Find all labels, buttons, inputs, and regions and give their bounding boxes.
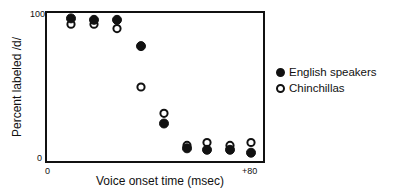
english-speakers-point <box>160 119 169 128</box>
chinchillas-point <box>137 83 144 90</box>
legend-label: Chinchillas <box>289 82 345 94</box>
y-axis-label: Percent labeled /d/ <box>10 32 24 142</box>
legend-label: English speakers <box>289 66 377 78</box>
english-speakers-point <box>183 144 192 153</box>
open-circle-icon <box>276 84 285 93</box>
chinchillas-point <box>113 25 120 32</box>
x-axis-label: Voice onset time (msec) <box>60 174 260 188</box>
english-speakers-point <box>137 42 146 51</box>
x-tick-0: 0 <box>45 166 50 176</box>
scatter-plot <box>0 0 398 195</box>
english-speakers-point <box>226 145 235 154</box>
english-speakers-point <box>113 15 122 24</box>
legend: English speakers Chinchillas <box>276 64 377 96</box>
chinchillas-point <box>160 110 167 117</box>
legend-item-chinchillas: Chinchillas <box>276 80 377 96</box>
english-speakers-point <box>90 15 99 24</box>
y-tick-0: 0 <box>37 153 42 163</box>
chinchillas-point <box>247 139 254 146</box>
y-tick-100: 100 <box>30 9 45 19</box>
english-speakers-point <box>247 148 256 157</box>
english-speakers-point <box>67 14 76 23</box>
data-points <box>67 14 256 157</box>
english-speakers-point <box>203 145 212 154</box>
plot-frame <box>46 12 264 162</box>
legend-item-english: English speakers <box>276 64 377 80</box>
filled-circle-icon <box>276 68 285 77</box>
